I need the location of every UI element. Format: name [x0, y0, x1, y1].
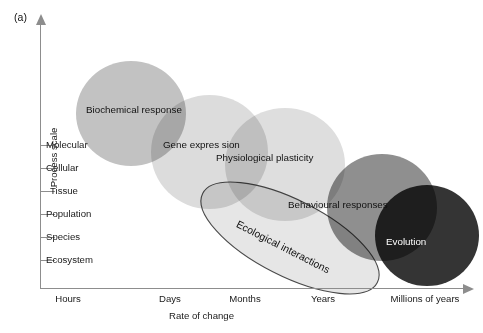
y-axis-title: Process scale: [48, 98, 59, 218]
y-tick-label-population: Population: [46, 208, 91, 219]
x-tick-label-years: Years: [283, 293, 363, 304]
y-tick-label-species: Species: [46, 231, 80, 242]
ellipse-label-gene-expression: Gene expres sion: [163, 139, 240, 150]
x-tick-label-months: Months: [205, 293, 285, 304]
x-tick-label-hours: Hours: [28, 293, 108, 304]
y-tick-label-cellular: Cellular: [46, 162, 79, 173]
x-axis-title: Rate of change: [0, 310, 483, 321]
y-tick-label-molecular: Molecular: [46, 139, 88, 150]
y-axis-arrow-icon: [36, 14, 46, 25]
ellipse-label-physiological-plasticity: Physiological plasticity: [216, 152, 313, 163]
x-tick-label-days: Days: [130, 293, 210, 304]
ellipse-label-behavioural-responses: Behavioural responses: [288, 199, 388, 210]
x-tick-label-millions-of-years: Millions of years: [370, 293, 480, 304]
process-scale-rate-of-change-diagram: (a) Biochemical response Gene expres sio…: [0, 0, 483, 333]
x-axis-arrow-icon: [463, 284, 474, 294]
y-axis-line: [40, 24, 41, 289]
x-axis-title-text: Rate of change: [169, 310, 234, 321]
x-axis-line: [40, 288, 465, 289]
y-tick-label-ecosystem: Ecosystem: [46, 254, 93, 265]
ellipse-label-evolution: Evolution: [386, 236, 426, 247]
ellipse-label-biochemical-response: Biochemical response: [86, 104, 182, 115]
y-tick-label-tissue: Tissue: [50, 185, 78, 196]
